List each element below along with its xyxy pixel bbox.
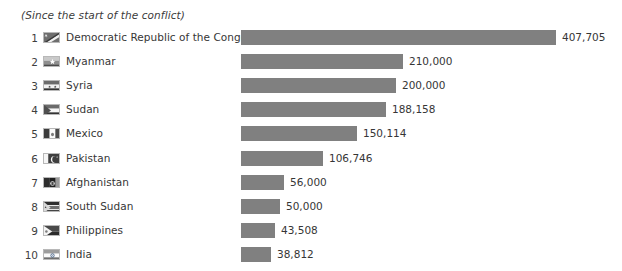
chart-row: 9Philippines43,508 — [0, 219, 622, 243]
flag-mexico-icon — [43, 128, 60, 139]
bar-chart: (Since the start of the conflict) 1Democ… — [0, 0, 622, 271]
chart-row: 3Syria200,000 — [0, 74, 622, 98]
rank-label: 1 — [18, 32, 38, 44]
value-bar — [241, 223, 275, 238]
value-label: 50,000 — [286, 200, 323, 212]
value-bar — [241, 78, 396, 93]
value-label: 210,000 — [409, 55, 452, 67]
country-label: India — [66, 248, 92, 260]
rank-label: 3 — [18, 80, 38, 92]
flag-sudan-icon — [43, 104, 60, 115]
value-bar — [241, 126, 357, 141]
chart-subtitle: (Since the start of the conflict) — [21, 9, 185, 21]
rank-label: 2 — [18, 56, 38, 68]
value-label: 38,812 — [277, 248, 314, 260]
flag-pakistan-icon — [43, 153, 60, 164]
value-label: 200,000 — [402, 79, 445, 91]
chart-row: 5Mexico150,114 — [0, 122, 622, 146]
country-label: Myanmar — [66, 55, 116, 67]
chart-row: 8South Sudan50,000 — [0, 195, 622, 219]
chart-row: 4Sudan188,158 — [0, 98, 622, 122]
value-bar — [241, 175, 284, 190]
chart-row: 7Afghanistan56,000 — [0, 171, 622, 195]
flag-south-sudan-icon — [43, 201, 60, 212]
country-label: Pakistan — [66, 152, 110, 164]
rank-label: 6 — [18, 153, 38, 165]
flag-democratic-republic-of-the-congo-icon — [43, 32, 60, 43]
value-label: 56,000 — [290, 176, 327, 188]
value-label: 106,746 — [329, 152, 372, 164]
rank-label: 8 — [18, 201, 38, 213]
flag-myanmar-icon — [43, 56, 60, 67]
country-label: Sudan — [66, 103, 99, 115]
rank-label: 10 — [18, 249, 38, 261]
flag-philippines-icon — [43, 225, 60, 236]
flag-syria-icon — [43, 80, 60, 91]
country-label: Mexico — [66, 127, 103, 139]
value-bar — [241, 102, 386, 117]
value-bar — [241, 199, 280, 214]
flag-afghanistan-icon — [43, 177, 60, 188]
chart-row: 10India38,812 — [0, 243, 622, 267]
value-label: 43,508 — [281, 224, 318, 236]
chart-row: 1Democratic Republic of the Congo407,705 — [0, 26, 622, 50]
chart-row: 6Pakistan106,746 — [0, 147, 622, 171]
country-label: Democratic Republic of the Congo — [66, 31, 247, 43]
rank-label: 9 — [18, 225, 38, 237]
country-label: Afghanistan — [66, 176, 129, 188]
value-bar — [241, 30, 556, 45]
value-label: 188,158 — [392, 103, 435, 115]
rank-label: 7 — [18, 177, 38, 189]
country-label: Syria — [66, 79, 93, 91]
value-bar — [241, 151, 323, 166]
flag-india-icon — [43, 249, 60, 260]
value-bar — [241, 247, 271, 262]
chart-row: 2Myanmar210,000 — [0, 50, 622, 74]
country-label: Philippines — [66, 224, 123, 236]
value-label: 150,114 — [363, 127, 406, 139]
rank-label: 5 — [18, 128, 38, 140]
country-label: South Sudan — [66, 200, 133, 212]
rank-label: 4 — [18, 104, 38, 116]
value-bar — [241, 54, 403, 69]
value-label: 407,705 — [562, 31, 605, 43]
